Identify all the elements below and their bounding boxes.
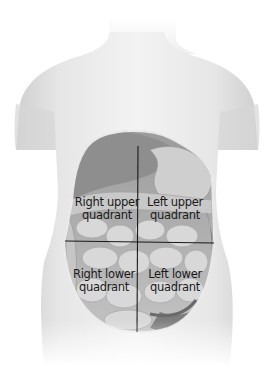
label-left-upper-quadrant: Left upper quadrant — [142, 196, 208, 222]
label-right-lower-quadrant: Right lower quadrant — [66, 268, 142, 294]
label-left-lower-quadrant: Left lower quadrant — [140, 268, 210, 294]
abdominal-quadrants-diagram: Right upper quadrant Left upper quadrant… — [0, 0, 274, 366]
torso-illustration — [0, 0, 274, 366]
label-line: quadrant — [142, 209, 208, 222]
label-line: quadrant — [140, 281, 210, 294]
label-right-upper-quadrant: Right upper quadrant — [72, 196, 142, 222]
label-line: quadrant — [66, 281, 142, 294]
label-line: quadrant — [72, 209, 142, 222]
